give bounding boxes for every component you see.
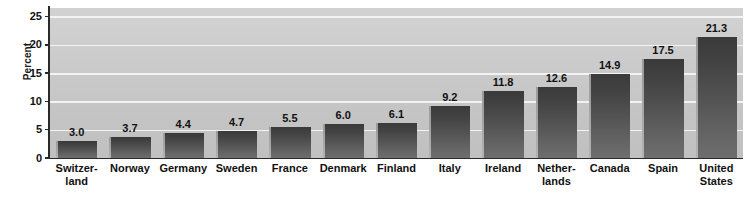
x-axis-category-label-line: Italy xyxy=(423,162,476,175)
x-axis-category-label: Denmark xyxy=(317,162,370,175)
bar-group: 5.5 xyxy=(263,8,316,158)
bar-group: 3.7 xyxy=(103,8,156,158)
x-axis-category-label-line: Sweden xyxy=(210,162,263,175)
x-axis-category-label-line: Norway xyxy=(103,162,156,175)
x-axis-category-label-line: States xyxy=(690,175,743,188)
x-axis-category-label-line: Germany xyxy=(157,162,210,175)
x-axis-category-label-line: Spain xyxy=(636,162,689,175)
bar-group: 14.9 xyxy=(583,8,636,158)
bar-value-label: 3.0 xyxy=(50,127,103,138)
bar xyxy=(269,127,310,158)
x-axis-category-label: Spain xyxy=(636,162,689,175)
bar xyxy=(642,59,683,158)
y-axis-tick-label: 5 xyxy=(36,124,45,135)
bar-value-label: 17.5 xyxy=(636,45,689,56)
bar-value-label: 12.6 xyxy=(530,73,583,84)
bar-value-label: 21.3 xyxy=(690,23,743,34)
bar-group: 9.2 xyxy=(423,8,476,158)
x-axis-category-label: UnitedStates xyxy=(690,162,743,188)
bar xyxy=(163,133,204,158)
bar xyxy=(536,87,577,158)
x-axis-line xyxy=(48,158,743,160)
x-axis-category-label: Ireland xyxy=(476,162,529,175)
bar-group: 6.0 xyxy=(317,8,370,158)
bar-value-label: 6.0 xyxy=(317,110,370,121)
x-axis-category-label: Finland xyxy=(370,162,423,175)
y-axis-tick-label: 15 xyxy=(30,67,45,78)
bar-group: 17.5 xyxy=(636,8,689,158)
x-axis-category-label-line: Canada xyxy=(583,162,636,175)
bar-value-label: 11.8 xyxy=(476,77,529,88)
bar xyxy=(216,131,257,158)
bar xyxy=(429,106,470,158)
bar xyxy=(323,124,364,158)
bar xyxy=(482,91,523,158)
x-axis-category-label: Italy xyxy=(423,162,476,175)
bar-chart: Percent 0510152025 3.03.74.44.75.56.06.1… xyxy=(0,0,750,200)
x-axis-category-label-line: Denmark xyxy=(317,162,370,175)
x-axis-category-label: France xyxy=(263,162,316,175)
bar xyxy=(589,74,630,158)
y-axis-tick-label: 10 xyxy=(30,95,45,106)
y-axis-tick-group: 0510152025 xyxy=(0,0,50,200)
x-axis-category-label-line: lands xyxy=(530,175,583,188)
x-axis-category-label-line: land xyxy=(50,175,103,188)
bar xyxy=(109,137,150,158)
x-axis-category-label-line: United xyxy=(690,162,743,175)
bar-value-label: 6.1 xyxy=(370,109,423,120)
bar-group: 6.1 xyxy=(370,8,423,158)
bar-group: 21.3 xyxy=(690,8,743,158)
bar-group: 4.7 xyxy=(210,8,263,158)
bar xyxy=(696,37,737,158)
bar xyxy=(376,123,417,158)
x-axis-category-label-line: Ireland xyxy=(476,162,529,175)
x-axis-category-labels: Switzer-landNorwayGermanySwedenFranceDen… xyxy=(50,162,743,198)
bar-group: 3.0 xyxy=(50,8,103,158)
x-axis-category-label: Switzer-land xyxy=(50,162,103,188)
bar-value-label: 4.7 xyxy=(210,117,263,128)
x-axis-category-label-line: France xyxy=(263,162,316,175)
x-axis-category-label: Sweden xyxy=(210,162,263,175)
x-axis-category-label: Canada xyxy=(583,162,636,175)
bar-series: 3.03.74.44.75.56.06.19.211.812.614.917.5… xyxy=(50,8,743,158)
bar-value-label: 3.7 xyxy=(103,123,156,134)
bar-group: 4.4 xyxy=(157,8,210,158)
bar-value-label: 4.4 xyxy=(157,119,210,130)
x-axis-category-label-line: Switzer- xyxy=(50,162,103,175)
x-axis-category-label: Norway xyxy=(103,162,156,175)
bar-value-label: 14.9 xyxy=(583,60,636,71)
x-axis-category-label: Nether-lands xyxy=(530,162,583,188)
bar-value-label: 9.2 xyxy=(423,92,476,103)
y-axis-tick-label: 0 xyxy=(36,152,45,163)
bar-group: 11.8 xyxy=(476,8,529,158)
bar xyxy=(56,141,97,158)
x-axis-category-label-line: Finland xyxy=(370,162,423,175)
y-axis-tick-label: 20 xyxy=(30,39,45,50)
x-axis-category-label: Germany xyxy=(157,162,210,175)
y-axis-tick-label: 25 xyxy=(30,10,45,21)
bar-group: 12.6 xyxy=(530,8,583,158)
bar-value-label: 5.5 xyxy=(263,113,316,124)
x-axis-category-label-line: Nether- xyxy=(530,162,583,175)
